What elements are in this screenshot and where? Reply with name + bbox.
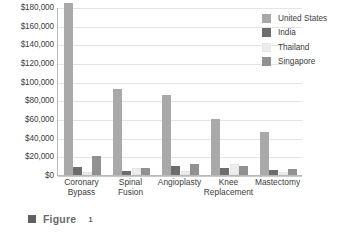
legend-swatch-icon [262, 57, 271, 66]
bar-thailand [279, 172, 288, 175]
x-axis: CoronaryBypassSpinalFusionAngioplastyKne… [57, 178, 302, 204]
chart-legend: United StatesIndiaThailandSingapore [262, 11, 357, 69]
bar-india [269, 170, 278, 175]
x-axis-label-line: Mastectomy [247, 178, 308, 188]
legend-swatch-icon [262, 14, 271, 23]
bar-group [205, 8, 254, 175]
y-axis: $0$20,000$40,000$60,000$80,000$100,000$1… [0, 8, 57, 176]
figure-container: $0$20,000$40,000$60,000$80,000$100,000$1… [0, 0, 359, 233]
bar-singapore [190, 164, 199, 175]
y-axis-tick-label: $20,000 [25, 153, 54, 161]
y-axis-tick-label: $100,000 [21, 79, 54, 87]
square-bullet-icon [28, 215, 36, 223]
legend-item-united-states[interactable]: United States [262, 11, 357, 26]
bar-group [156, 8, 205, 175]
bar-singapore [239, 166, 248, 175]
bar-thailand [83, 172, 92, 175]
bar-india [171, 166, 180, 175]
bar-group [58, 8, 107, 175]
x-axis-label-line: Replacement [198, 188, 259, 198]
y-axis-tick-label: $140,000 [21, 41, 54, 49]
bar-group [107, 8, 156, 175]
legend-swatch-icon [262, 28, 271, 37]
caption-number: 1 [88, 215, 92, 224]
bar-united-states [211, 119, 220, 175]
x-axis-label-line: Fusion [100, 188, 161, 198]
legend-label: Thailand [278, 43, 309, 52]
legend-label: United States [278, 14, 327, 23]
caption-word: Figure [43, 213, 76, 225]
y-axis-tick-label: $180,000 [21, 4, 54, 12]
bar-singapore [92, 156, 101, 175]
bar-united-states [113, 89, 122, 175]
bar-united-states [260, 132, 269, 175]
bar-thailand [132, 168, 141, 175]
bar-united-states [64, 3, 73, 175]
y-axis-tick-label: $40,000 [25, 135, 54, 143]
legend-swatch-icon [262, 43, 271, 52]
bar-india [122, 171, 131, 175]
bar-thailand [181, 171, 190, 175]
legend-label: India [278, 28, 296, 37]
legend-item-singapore[interactable]: Singapore [262, 55, 357, 70]
legend-item-india[interactable]: India [262, 26, 357, 41]
bar-thailand [230, 164, 239, 175]
figure-caption: Figure 1 [28, 213, 93, 225]
y-axis-tick-label: $120,000 [21, 60, 54, 68]
x-axis-category-label: Mastectomy [247, 178, 308, 188]
bar-india [73, 167, 82, 175]
bar-singapore [141, 168, 150, 175]
bar-united-states [162, 95, 171, 175]
legend-item-thailand[interactable]: Thailand [262, 40, 357, 55]
y-axis-tick-label: $160,000 [21, 23, 54, 31]
bar-india [220, 168, 229, 175]
bar-chart: $0$20,000$40,000$60,000$80,000$100,000$1… [0, 0, 359, 205]
y-axis-tick-label: $80,000 [25, 97, 54, 105]
legend-label: Singapore [278, 57, 315, 66]
y-axis-tick-label: $60,000 [25, 116, 54, 124]
bar-singapore [288, 169, 297, 175]
